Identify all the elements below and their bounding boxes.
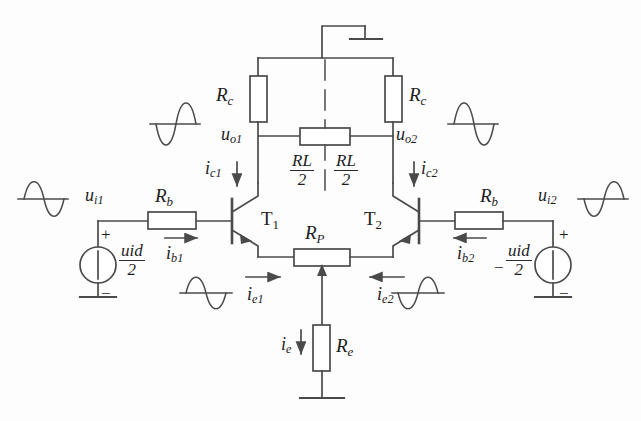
- label-rp: RP: [305, 222, 325, 247]
- label-rc-left: Rc: [216, 84, 233, 109]
- polarity-left-minus: −: [101, 284, 111, 304]
- label-ie2: ie2: [377, 284, 394, 307]
- rp-wiper: [317, 264, 327, 325]
- waveform-uo1: [150, 103, 200, 145]
- label-uo2: uo2: [396, 124, 417, 147]
- label-ie1: ie1: [247, 284, 264, 307]
- resistor-rp: [294, 249, 350, 266]
- waveform-ie1: [180, 277, 232, 309]
- label-ic1: ic1: [205, 158, 222, 181]
- resistor-rc-right: [385, 76, 402, 122]
- resistor-rl-split: [300, 128, 350, 145]
- polarity-right-minus: −: [559, 284, 569, 304]
- resistor-re: [313, 325, 330, 371]
- label-source-left-value: uid 2: [119, 242, 145, 278]
- circuit-schematic-svg: [0, 0, 641, 421]
- supply-ground-node: [322, 26, 382, 58]
- label-rb-left: Rb: [155, 185, 173, 210]
- label-uo1: uo1: [221, 124, 242, 147]
- label-ui2: ui2: [538, 185, 557, 208]
- transistor-t1: [196, 183, 258, 257]
- label-rc-right: Rc: [409, 84, 426, 109]
- label-source-right-value: uid 2: [506, 242, 532, 278]
- label-ui1: ui1: [85, 185, 104, 208]
- label-ie: ie: [281, 334, 291, 357]
- waveform-ie2: [392, 277, 444, 309]
- polarity-left-plus: +: [101, 225, 111, 245]
- resistor-rc-left: [250, 76, 267, 122]
- waveform-ui1: [18, 182, 68, 217]
- label-rb-right: Rb: [480, 185, 498, 210]
- resistor-rb-left: [148, 212, 196, 229]
- label-re: Re: [336, 335, 353, 360]
- label-source-right-negative-sign: −: [494, 258, 504, 278]
- label-transistor-t1: T1: [261, 208, 279, 233]
- label-ic2: ic2: [421, 158, 438, 181]
- waveform-uo2: [448, 103, 498, 145]
- label-rl-half-right: RL 2: [334, 152, 358, 188]
- label-transistor-t2: T2: [364, 208, 382, 233]
- polarity-right-plus: +: [559, 225, 569, 245]
- transistor-t2: [393, 183, 455, 257]
- label-ib1: ib1: [166, 243, 183, 266]
- resistor-rb-right: [455, 212, 503, 229]
- circuit-diagram: Rc Rc Rb Rb RP Re T1 T2 RL 2 RL 2 uo1 uo…: [0, 0, 641, 421]
- label-rl-half-left: RL 2: [290, 152, 314, 188]
- label-ib2: ib2: [457, 243, 474, 266]
- waveform-ui2: [578, 182, 628, 217]
